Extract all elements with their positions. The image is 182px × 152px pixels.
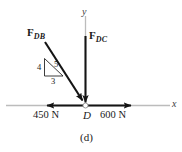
vector-label-fdb: FDB [27,27,45,41]
vector-fdc-symbol: F [89,29,96,41]
node-d-label: D [83,110,91,121]
slope-hypotenuse-label: 5 [54,60,58,69]
vector-fdc-subscript: DC [96,35,108,44]
force-450-label: 450 N [33,110,59,121]
vector-fdb-symbol: F [27,26,34,38]
node-d-marker [83,103,88,108]
vector-fdb-arrow [45,42,83,101]
vector-fdb-subscript: DB [34,32,46,41]
x-axis-label: x [172,99,176,109]
slope-horizontal-label: 3 [51,77,55,86]
free-body-diagram: y x FDB FDC 4 5 3 450 N D 600 N (d) [0,0,182,152]
diagram-canvas [0,0,182,152]
y-axis-label: y [82,7,86,17]
vector-label-fdc: FDC [89,30,107,44]
force-600-label: 600 N [100,110,126,121]
slope-vertical-label: 4 [37,63,41,72]
figure-caption: (d) [80,132,93,143]
